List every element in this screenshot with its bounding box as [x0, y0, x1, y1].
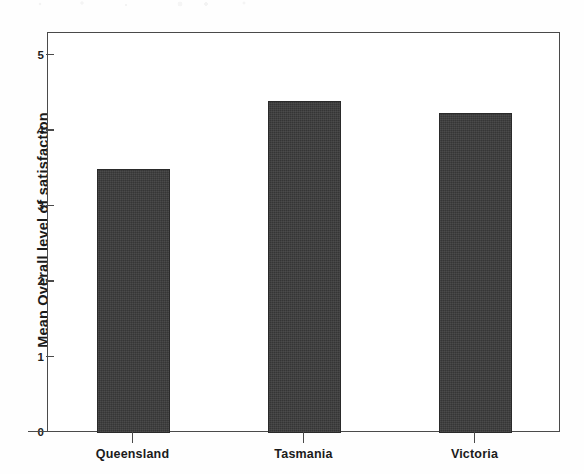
y-axis-tick-label: 4	[38, 123, 44, 137]
y-axis-tick: 5	[30, 48, 54, 62]
bar	[268, 101, 341, 433]
y-axis-tick-mark	[46, 205, 54, 206]
scan-artifact	[30, 0, 290, 9]
y-axis-tick-label: 1	[38, 350, 44, 364]
bar-chart: Mean Overall level of satisfaction 54321…	[0, 0, 584, 474]
x-axis-baseline-extension	[28, 431, 48, 432]
y-axis-tick-mark	[46, 356, 54, 357]
y-axis-tick-mark	[46, 129, 54, 130]
x-axis-tick-label: Victoria	[395, 447, 555, 461]
y-axis-tick-label: 2	[38, 274, 44, 288]
bars-layer	[48, 33, 559, 431]
x-axis-tick-mark	[303, 432, 304, 443]
x-axis-tick-label: Tasmania	[224, 447, 384, 461]
y-axis-tick-label: 5	[38, 48, 44, 62]
bar	[439, 113, 512, 433]
y-axis-tick-mark	[46, 54, 54, 55]
x-axis-tick-label: Queensland	[53, 447, 213, 461]
plot-area	[47, 32, 560, 432]
y-axis-tick: 2	[30, 274, 54, 288]
y-axis-tick-mark	[46, 280, 54, 281]
y-axis-tick: 4	[30, 123, 54, 137]
y-axis-tick: 3	[30, 199, 54, 213]
x-axis-tick-mark	[132, 432, 133, 443]
y-axis-tick: 1	[30, 350, 54, 364]
bar	[97, 169, 170, 433]
y-axis-tick-label: 3	[38, 199, 44, 213]
x-axis-tick-mark	[474, 432, 475, 443]
